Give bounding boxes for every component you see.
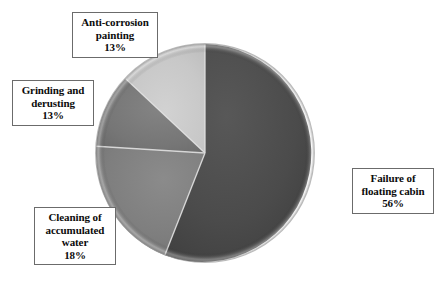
callout-value: 13%	[78, 41, 152, 54]
callout-failure-of-floating-cabin: Failure of floating cabin 56%	[352, 168, 434, 214]
callout-value: 13%	[18, 109, 88, 122]
callout-anti-corrosion-painting: Anti-corrosion painting 13%	[72, 12, 158, 58]
callout-line: water	[40, 236, 110, 249]
callout-line: accumulated	[40, 224, 110, 237]
callout-line: Cleaning of	[40, 211, 110, 224]
pie-svg	[94, 42, 316, 264]
callout-value: 18%	[40, 249, 110, 262]
callout-line: Grinding and	[18, 84, 88, 97]
callout-grinding-and-derusting: Grinding and derusting 13%	[12, 80, 94, 126]
callout-line: derusting	[18, 97, 88, 110]
callout-line: Failure of	[358, 172, 428, 185]
pie-rim-shading	[96, 44, 314, 262]
pie-chart-figure: Anti-corrosion painting 13% Grinding and…	[0, 0, 442, 285]
callout-value: 56%	[358, 197, 428, 210]
callout-cleaning-of-accumulated-water: Cleaning of accumulated water 18%	[34, 207, 116, 265]
callout-line: Anti-corrosion	[78, 16, 152, 29]
pie-chart-graphic	[94, 42, 316, 264]
callout-line: painting	[78, 29, 152, 42]
callout-line: floating cabin	[358, 185, 428, 198]
